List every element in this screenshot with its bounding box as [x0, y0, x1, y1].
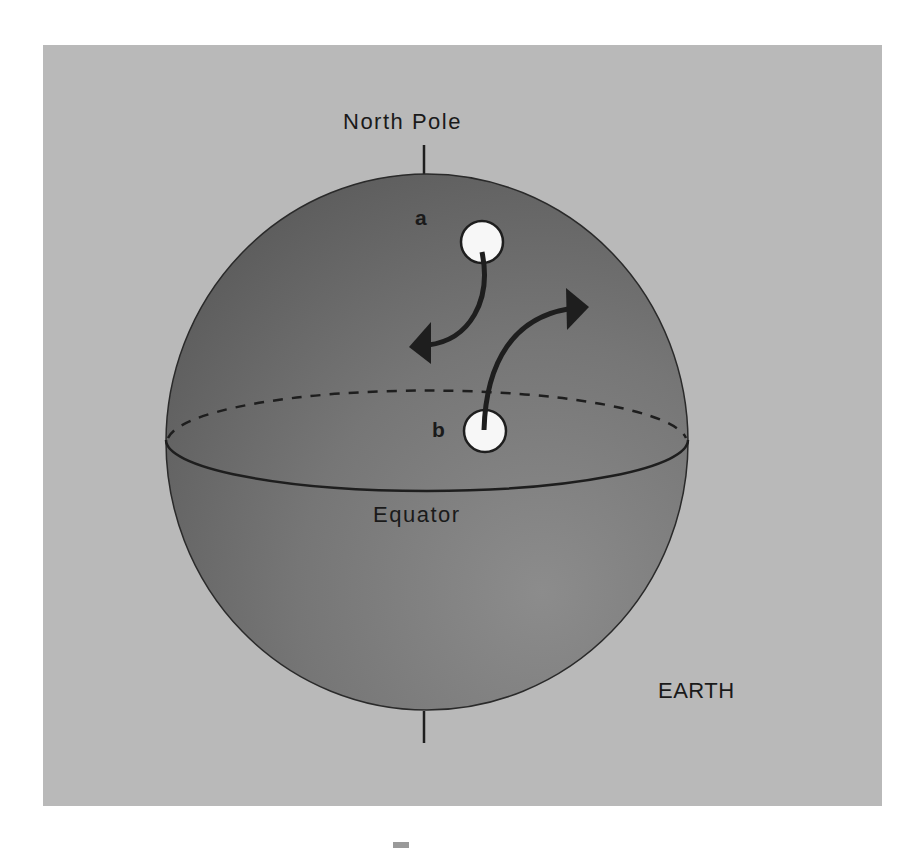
earth-label: EARTH — [658, 680, 735, 702]
point-b-label: b — [432, 419, 445, 440]
point-a-label: a — [415, 207, 427, 228]
equator-label: Equator — [373, 504, 461, 526]
earth-sphere — [166, 174, 688, 710]
north-pole-label: North Pole — [343, 111, 462, 133]
cropped-caption-fragment — [393, 842, 409, 848]
